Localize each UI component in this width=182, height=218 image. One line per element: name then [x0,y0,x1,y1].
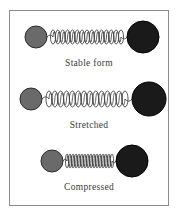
spring-assembly-stable [10,17,170,61]
diagram-row-stretched: Stretched [10,79,168,141]
caption-stretched: Stretched [10,119,168,131]
large-mass-ball-stretched [132,82,166,116]
figure-border: Stable form Stretched Compressed [9,10,169,206]
spring-svg-stretched [10,79,170,123]
spring-svg-compressed [10,141,170,185]
diagram-row-compressed: Compressed [10,141,168,203]
spring-coil-stretched [42,91,132,107]
caption-compressed: Compressed [10,181,168,193]
spring-assembly-stretched [10,79,170,123]
spring-states-figure: Stable form Stretched Compressed [0,0,182,218]
large-mass-ball-compressed [116,145,148,177]
small-mass-ball-stretched [20,88,42,110]
spring-assembly-compressed [10,141,170,185]
spring-svg-stable [10,17,170,61]
spring-coil-stable [47,30,127,44]
large-mass-ball-stable [127,21,159,53]
small-mass-ball-compressed [41,150,63,172]
small-mass-ball-stable [25,26,47,48]
diagram-row-stable: Stable form [10,17,168,79]
spring-coil-compressed [63,154,116,168]
caption-stable: Stable form [10,57,168,69]
